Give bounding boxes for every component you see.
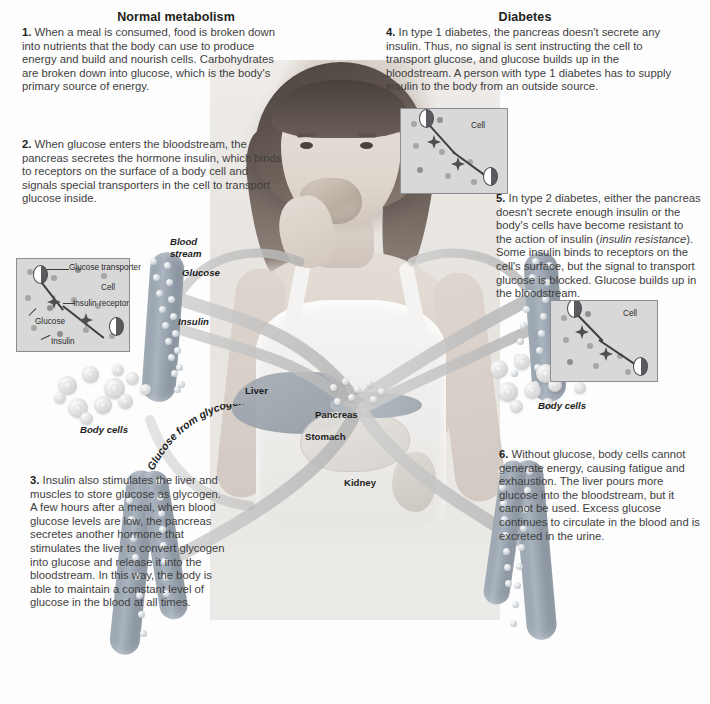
glucose-bead [512,601,519,608]
glucose-molecule [370,396,377,403]
glucose-molecule [342,378,349,385]
glucose-bead [510,620,517,627]
glucose-bead [138,611,145,618]
label-insulin: Insulin [178,316,209,327]
step-2-text: When glucose enters the bloodstream, the… [22,138,281,204]
body-cell [514,354,530,370]
step-4-number: 4. [386,26,395,38]
body-cell [140,384,151,395]
body-cell [524,382,541,399]
inset-label-glucose-transporter: Glucose transporter [69,263,141,272]
glucose-bead [168,354,175,361]
heading-diabetes: Diabetes [425,10,625,24]
glucose-bead [518,544,525,551]
inset-label-glucose: Glucose [35,317,65,326]
step-1-text: When a meal is consumed, food is broken … [22,26,275,92]
glucose-bead [172,330,179,337]
glucose-molecule [354,386,361,393]
label-kidney: Kidney [344,477,376,488]
step-6-number: 6. [499,448,508,460]
body-cell [82,366,99,383]
glucose-bead [171,370,178,377]
glucose-bead [174,347,181,354]
body-cell [574,382,586,394]
inset-label-cell-type2: Cell [623,309,637,318]
glucose-bead [523,306,530,313]
label-liver: Liver [245,385,268,396]
step-6-text: Without glucose, body cells cannot gener… [499,448,700,542]
label-glucose: Glucose [182,267,220,278]
step-1-number: 1. [22,26,31,38]
step-3-text: Insulin also stimulates the liver and mu… [30,474,225,608]
inset-type1-cell: Cell [400,108,508,194]
glucose-cluster-pancreas [330,378,400,408]
glucose-bead [156,290,163,297]
glucose-bead [150,258,157,265]
paragraph-step-2: 2. When glucose enters the bloodstream, … [22,138,284,206]
body-cell [118,394,133,409]
glucose-molecule [348,394,355,401]
glucose-bead [153,274,160,281]
body-cell [510,400,523,413]
inset-label-cell-type1: Cell [471,121,485,130]
diagram-canvas: Glucose transporter Cell Insulin recepto… [0,0,710,704]
paragraph-step-6: 6. Without glucose, body cells cannot ge… [499,448,701,543]
glucose-bead [517,338,524,345]
step-5-italic-term: insulin resistance [600,233,687,245]
glucose-bead [170,313,177,320]
glucose-bead [164,262,171,269]
glucose-bead [166,279,173,286]
glucose-molecule [366,380,373,387]
paragraph-step-1: 1. When a meal is consumed, food is brok… [22,26,284,94]
inset-type2-cell: Cell [550,300,658,382]
glucose-bead [520,322,527,329]
label-body-cells-left: Body cells [80,424,128,435]
glucose-bead [514,582,521,589]
glucose-bead [162,322,169,329]
inset-normal-cell: Glucose transporter Cell Insulin recepto… [16,258,130,352]
paragraph-step-4: 4. In type 1 diabetes, the pancreas does… [386,26,686,94]
label-glucose-from-glycogen-curve: Glucose from glycogen [148,404,328,474]
body-cell [54,392,66,404]
label-glucose-from-glycogen: Glucose from glycogen [148,404,246,472]
glucose-bead [165,338,172,345]
glucose-bead [503,548,510,555]
heading-normal-metabolism: Normal metabolism [66,10,286,24]
glucose-bead [516,563,523,570]
glucose-bead [168,296,175,303]
glucose-bead [540,313,547,320]
glucose-bead [504,564,511,571]
glucose-bead [538,330,545,337]
label-blood-stream-line2: stream [170,248,201,259]
paragraph-step-5: 5. In type 2 diabetes, either the pancre… [496,192,702,301]
glucose-bead [505,580,512,587]
glucose-molecule [378,388,385,395]
glucose-bead [178,381,185,388]
glucose-bead [176,364,183,371]
paragraph-step-3: 3. Insulin also stimulates the liver and… [30,474,230,610]
inset-label-insulin: Insulin [51,337,75,346]
label-blood-stream-line1: Blood [170,236,197,247]
step-5-number: 5. [496,192,505,204]
body-cell [126,372,139,385]
glucose-molecule [330,384,337,391]
inset-label-cell: Cell [101,283,115,292]
glucose-bead [140,630,147,637]
step-4-text: In type 1 diabetes, the pancreas doesn't… [386,26,671,92]
inset-label-insulin-receptor: Insulin receptor [73,299,129,308]
body-cell [490,360,508,378]
body-cell [94,396,112,414]
body-cell [498,382,518,402]
body-cell [112,364,124,376]
step-3-number: 3. [30,474,39,486]
step-2-number: 2. [22,138,31,150]
glucose-bead [159,306,166,313]
label-body-cells-right: Body cells [538,400,586,411]
